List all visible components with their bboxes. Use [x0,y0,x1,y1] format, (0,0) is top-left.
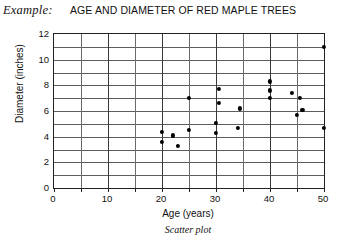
y-axis-tick-label: 0 [27,182,49,193]
x-axis-tick-label: 10 [102,193,113,204]
data-point [268,88,272,92]
x-axis-tick [135,188,136,192]
x-axis-tick-label: 0 [50,193,55,204]
y-axis-tick-label: 2 [27,156,49,167]
x-axis-tick [270,188,271,192]
x-axis-tick [162,188,163,192]
chart-header: Example: AGE AND DIAMETER OF RED MAPLE T… [0,0,339,22]
x-axis-tick [81,188,82,192]
y-axis-tick-label: 6 [27,105,49,116]
scatter-plot-area [53,33,325,189]
chart-caption: Scatter plot [53,224,323,235]
data-point [217,101,221,105]
page-title: AGE AND DIAMETER OF RED MAPLE TREES [70,4,296,16]
data-point [217,87,221,91]
x-axis-tick-label: 30 [210,193,221,204]
data-point [171,133,175,137]
x-axis-tick-label: 40 [264,193,275,204]
data-point [236,126,240,130]
data-point [214,131,218,135]
data-point [268,79,272,83]
y-axis-tick-label: 8 [27,79,49,90]
data-point [300,108,304,112]
x-axis-tick [216,188,217,192]
y-axis-tick-label: 10 [27,53,49,64]
x-axis-tick [108,188,109,192]
y-axis-tick-label: 4 [27,130,49,141]
x-axis-tick [243,188,244,192]
x-axis-tick [324,188,325,192]
x-axis-tick [54,188,55,192]
data-point [238,106,242,110]
y-axis-tick-labels: 024681012 [25,33,49,187]
data-point [160,140,164,144]
data-point [187,96,191,100]
data-point [322,126,326,130]
data-point [187,128,191,132]
data-point [290,91,294,95]
x-axis-title: Age (years) [53,208,323,219]
data-points-layer [54,34,324,188]
data-point [176,144,180,148]
x-axis-tick-label: 20 [156,193,167,204]
x-axis-tick-label: 50 [318,193,329,204]
data-point [295,113,299,117]
data-point [160,129,164,133]
data-point [298,96,302,100]
y-axis-tick-label: 12 [27,28,49,39]
example-label: Example: [3,3,53,18]
data-point [268,96,272,100]
data-point [322,45,326,49]
y-axis-title: Diameter (inches) [14,19,25,149]
x-axis-tick [189,188,190,192]
x-axis-tick [297,188,298,192]
data-point [214,120,218,124]
x-axis-tick-labels: 01020304050 [53,193,323,207]
